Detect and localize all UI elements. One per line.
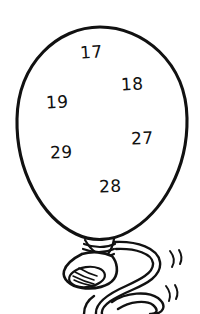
num-29: 29 (50, 144, 73, 162)
num-18: 18 (121, 75, 144, 93)
num-27: 27 (131, 130, 154, 148)
num-17: 17 (79, 43, 103, 62)
num-19: 19 (46, 93, 69, 111)
num-28: 28 (99, 178, 122, 196)
image-canvas: 17 18 19 27 29 28 (0, 0, 200, 314)
